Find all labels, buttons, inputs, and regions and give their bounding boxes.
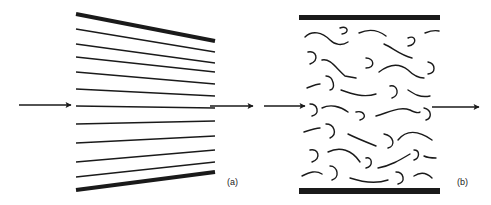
panel-a (19, 14, 253, 190)
wall-bottom-b (299, 188, 440, 194)
streamline (76, 72, 215, 84)
streamline (76, 106, 215, 108)
curly-fragments (302, 27, 439, 184)
panel-b (264, 15, 479, 194)
streamline (76, 57, 215, 72)
panel-a-label: (a) (227, 177, 238, 187)
streamline (76, 29, 215, 52)
wall-top-a (76, 14, 215, 41)
panel-b-label: (b) (457, 177, 468, 187)
streamline (76, 44, 215, 63)
streamlines (76, 29, 215, 177)
streamline (76, 121, 215, 124)
diagram-canvas (0, 0, 491, 205)
streamline (76, 136, 215, 143)
streamline (76, 89, 215, 96)
streamline (76, 150, 215, 162)
wall-top-b (299, 15, 440, 20)
